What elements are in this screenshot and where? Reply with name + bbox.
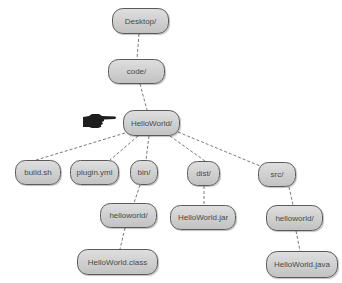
edge-bin-helloworld-to-helloworld-class [120, 228, 125, 249]
node-helloworld-jar: HelloWorld.jar [170, 205, 236, 230]
node-label: helloworld/ [275, 214, 313, 223]
edge-desktop-to-code [137, 34, 139, 59]
node-plugin-yml: plugin.yml [70, 160, 119, 185]
node-label: Desktop/ [125, 17, 157, 26]
edge-helloworld-root-to-build-sh [33, 133, 125, 161]
edge-code-to-helloworld-root [140, 84, 147, 110]
node-label: HelloWorld/ [131, 119, 172, 128]
node-label: HelloWorld.java [274, 260, 330, 269]
node-helloworld-java: HelloWorld.java [266, 251, 338, 278]
node-label: code/ [127, 67, 147, 76]
node-label: dist/ [196, 169, 211, 178]
node-desktop: Desktop/ [112, 8, 169, 34]
node-src: src/ [258, 162, 296, 187]
node-label: plugin.yml [76, 168, 112, 177]
node-label: bin/ [138, 168, 151, 177]
node-label: helloworld/ [109, 211, 147, 220]
node-bin: bin/ [130, 160, 158, 185]
node-src-helloworld: helloworld/ [266, 205, 323, 231]
edge-helloworld-root-to-dist [170, 136, 205, 161]
edge-src-to-src-helloworld [289, 187, 293, 205]
node-build-sh: build.sh [15, 160, 61, 185]
pointing-hand-icon [83, 113, 117, 131]
edge-src-helloworld-to-helloworld-java [296, 231, 300, 251]
node-bin-helloworld: helloworld/ [100, 203, 157, 228]
edge-helloworld-root-to-src [178, 132, 260, 166]
edge-layer [0, 0, 342, 283]
node-label: build.sh [24, 168, 52, 177]
node-code: code/ [108, 59, 165, 84]
edge-helloworld-root-to-plugin-yml [110, 136, 138, 160]
node-helloworld-class: HelloWorld.class [77, 249, 158, 275]
node-label: HelloWorld.class [88, 258, 147, 267]
node-label: HelloWorld.jar [178, 213, 228, 222]
node-label: src/ [271, 170, 284, 179]
edge-bin-to-bin-helloworld [134, 185, 140, 203]
node-helloworld-root: HelloWorld/ [123, 110, 180, 136]
node-dist: dist/ [187, 161, 220, 186]
edge-helloworld-root-to-bin [146, 136, 149, 160]
